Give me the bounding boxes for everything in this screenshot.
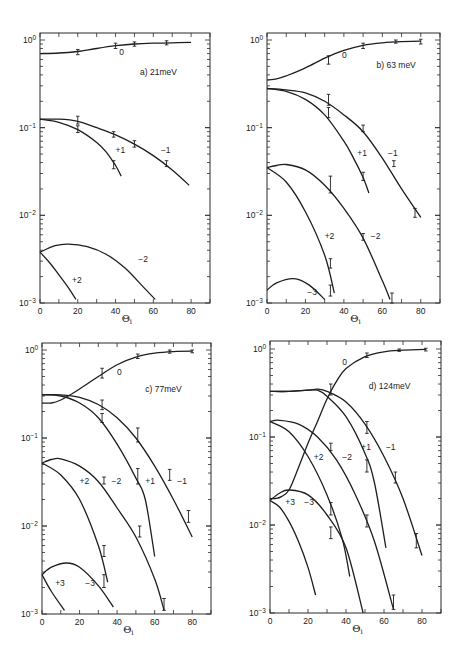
y-tick-label: 10−2 [19,209,36,220]
plot-frame [270,341,441,613]
curve-label: −1 [161,145,171,155]
curve-label: −3 [304,497,314,507]
curve-label: −3 [307,287,317,297]
x-axis-label: Θi [350,313,361,326]
y-tick-label: 10−1 [19,122,36,133]
panel-b: 02040608010010−110−210−3Θi0+1−1+2−2−3b) … [246,33,440,326]
x-tick-label: 20 [73,306,83,316]
panel-title: d) 124meV [369,381,411,391]
y-tick-label: 100 [253,343,266,354]
x-tick-label: 20 [301,306,311,316]
x-tick-label: 40 [339,306,349,316]
y-tick-label: 100 [25,344,38,355]
curve-label: −2 [111,476,121,486]
panel-d: 02040608010010−110−210−3Θi0+1−1+2−2+3−3d… [249,341,441,636]
curve-label: +3 [285,497,295,507]
curve-label: +1 [361,442,371,452]
y-tick-label: 10−1 [21,432,38,443]
x-tick-label: 60 [149,306,159,316]
curve-label: −1 [388,148,398,158]
x-tick-label: 0 [265,306,270,316]
y-tick-label: 100 [250,34,263,45]
curve-label: +2 [80,476,90,486]
panel-title: a) 21meV [140,67,177,77]
x-axis-label: Θi [352,623,363,636]
curve-order-plus1 [40,119,121,176]
panel-a: 02040608010010−110−210−3Θi0+1−1−2+2a) 21… [19,33,210,326]
y-tick-label: 10−3 [21,608,38,619]
curve-label: −1 [386,442,396,452]
x-tick-label: 80 [187,617,197,627]
curve-label: +1 [116,145,126,155]
curve-label: 0 [119,47,124,57]
curve-label: 0 [117,367,122,377]
y-tick-label: 10−2 [21,520,38,531]
y-tick-label: 10−2 [249,519,266,530]
curve-order-plus1 [267,89,369,194]
curve-order-minus1 [270,389,422,555]
curve-order-minus3 [42,563,113,607]
y-tick-label: 10−3 [246,297,263,308]
x-tick-label: 20 [303,616,313,626]
curve-label: +2 [72,275,82,285]
panel-title: c) 77meV [145,384,182,394]
y-tick-label: 10−1 [249,431,266,442]
x-tick-label: 0 [38,306,43,316]
x-tick-label: 60 [378,306,388,316]
x-tick-label: 80 [186,306,196,316]
curve-order-plus3 [270,501,316,596]
y-tick-label: 100 [23,34,36,45]
y-tick-label: 10−3 [249,607,266,618]
curve-label: −1 [177,476,187,486]
panel-c: 02040608010010−110−210−3Θi0+2−2+1−1+3−3c… [21,343,211,637]
curve-label: +2 [314,452,324,462]
curve-order-minus1 [42,395,192,537]
y-tick-label: 10−1 [246,122,263,133]
x-tick-label: 40 [111,306,121,316]
panel-title: b) 63 meV [377,60,417,70]
curve-label: −2 [138,254,148,264]
x-tick-label: 80 [416,306,426,316]
figure: 02040608010010−110−210−3Θi0+1−1−2+2a) 21… [0,0,464,649]
x-tick-label: 0 [268,616,273,626]
x-tick-label: 40 [341,616,351,626]
y-tick-label: 10−2 [246,209,263,220]
x-tick-label: 20 [75,617,85,627]
x-tick-label: 60 [150,617,160,627]
y-tick-label: 10−3 [19,297,36,308]
x-axis-label: Θi [123,624,134,637]
x-tick-label: 80 [417,616,427,626]
x-tick-label: 60 [379,616,389,626]
curve-order-0 [270,349,426,498]
curve-label: −2 [342,452,352,462]
curve-label: +2 [325,231,335,241]
plot-frame [40,33,210,303]
x-tick-label: 40 [112,617,122,627]
curve-label: 0 [342,50,347,60]
curve-label: +1 [145,476,155,486]
curve-label: +1 [357,148,367,158]
curve-label: 0 [342,357,347,367]
x-axis-label: Θi [122,313,133,326]
x-tick-label: 0 [40,617,45,627]
curve-order-minus3 [270,490,363,613]
curve-order-plus2 [40,252,76,299]
curve-label: +3 [55,578,65,588]
curve-label: −3 [85,578,95,588]
curve-label: −2 [371,231,381,241]
